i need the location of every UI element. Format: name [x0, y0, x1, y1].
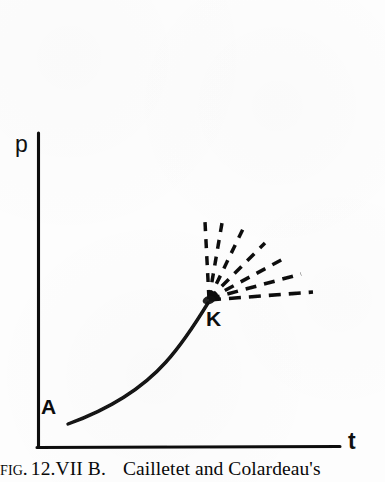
caption-title-text: Cailletet and Colardeau's [123, 458, 321, 479]
point-label-k: K [206, 308, 221, 329]
figure-page: p t A K FIG.12.VII B.Cailletet and Colar… [0, 0, 385, 482]
caption-figure-number: 12.VII B. [31, 458, 106, 479]
x-axis-label: t [348, 430, 356, 453]
vapour-pressure-curve [68, 303, 208, 424]
x-axis-line [37, 447, 340, 448]
y-axis-label: p [15, 133, 28, 156]
point-label-a: A [41, 396, 56, 417]
figure-caption: FIG.12.VII B.Cailletet and Colardeau's [0, 456, 385, 482]
isochore-ray-7 [209, 292, 313, 300]
isochore-ray-2 [209, 223, 222, 299]
caption-fig-word: FIG. [0, 458, 28, 479]
isochore-ray-1 [205, 222, 209, 299]
vapour-pressure-curve-group [68, 303, 208, 424]
axes-group [37, 133, 340, 448]
figure-drawing [0, 0, 385, 458]
isochore-fan-group [205, 222, 313, 300]
